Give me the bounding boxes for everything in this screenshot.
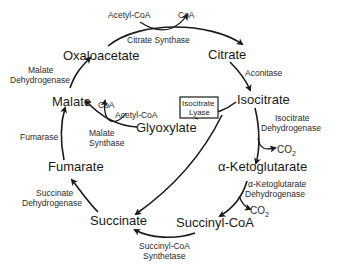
cofactor-coa-mid: CoA (98, 100, 115, 110)
metabolite-succinate: Succinate (90, 213, 147, 228)
arrow-co2-release-1 (258, 138, 275, 149)
cofactor-co2-1: CO2 (277, 144, 296, 157)
metabolite-alpha-ketoglutarate: α-Ketoglutarate (218, 159, 307, 174)
glyoxylate-cycle-diagram: Oxaloacetate Citrate Isocitrate α-Ketogl… (0, 0, 339, 266)
enzyme-fumarase: Fumarase (20, 132, 59, 142)
enzyme-akg-dh-line1: α-Ketoglutarate (248, 179, 307, 189)
arrow-succinyl-coa-to-succinate (135, 230, 195, 237)
enzyme-malate-synthase-line2: Synthase (89, 138, 125, 148)
enzyme-malate-dh-line1: Malate (28, 65, 54, 75)
enzyme-isocitrate-lyase-line2: Lyase (189, 108, 211, 117)
arrow-fumarate-to-malate (61, 108, 65, 160)
cofactor-coa-top: CoA (178, 10, 195, 20)
arrow-isocitrate-to-akg (255, 108, 259, 163)
enzyme-succinyl-coa-synthetase-line1: Succinyl-CoA (139, 241, 190, 251)
metabolite-oxaloacetate: Oxaloacetate (63, 48, 140, 63)
cofactor-acetyl-coa-top: Acetyl-CoA (108, 10, 151, 20)
enzyme-isocitrate-lyase-line1: Isocitrate (182, 99, 215, 108)
enzyme-isocitrate-dh-line1: Isocitrate (275, 113, 310, 123)
metabolite-fumarate: Fumarate (48, 159, 104, 174)
enzyme-succinate-dh-line2: Dehydrogenase (22, 198, 82, 208)
metabolite-isocitrate: Isocitrate (237, 92, 290, 107)
enzyme-aconitase: Aconitase (245, 68, 283, 78)
enzyme-malate-synthase-line1: Malate (89, 128, 115, 138)
metabolite-glyoxylate: Glyoxylate (136, 120, 197, 135)
enzyme-malate-dh-line2: Dehydrogenase (10, 75, 70, 85)
metabolite-citrate: Citrate (208, 47, 246, 62)
enzyme-succinyl-coa-synthetase-line2: Synthetase (143, 251, 186, 261)
enzyme-isocitrate-dh-line2: Dehydrogenase (261, 123, 321, 133)
enzyme-citrate-synthase: Citrate Synthase (127, 35, 190, 45)
enzyme-akg-dh-line2: Dehydrogenase (245, 189, 305, 199)
arrow-akg-to-succinyl-coa (220, 181, 247, 216)
cofactor-acetyl-coa-mid: Acetyl-CoA (115, 110, 158, 120)
metabolite-succinyl-coa: Succinyl-CoA (176, 215, 254, 230)
enzyme-succinate-dh-line1: Succinate (36, 188, 74, 198)
metabolite-malate: Malate (52, 94, 91, 109)
